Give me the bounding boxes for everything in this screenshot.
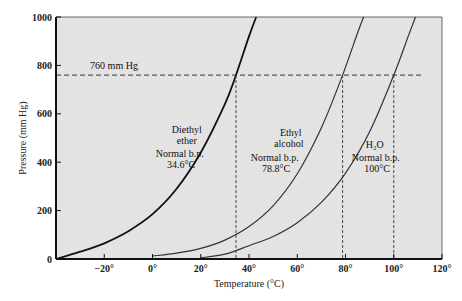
water-label-line-1: H₂O xyxy=(366,139,384,150)
ether-label-line-4: 34.6°C xyxy=(167,159,195,170)
ether-label-line-1: Diethyl xyxy=(172,124,202,135)
ether-label-line-2: ether xyxy=(177,135,198,146)
x-tick-label: 80° xyxy=(339,263,353,274)
alcohol-label-line-4: 78.8°C xyxy=(262,163,290,174)
x-tick-label: 60° xyxy=(290,263,304,274)
y-tick-label: 1000 xyxy=(32,12,52,23)
alcohol-label-line-2: alcohol xyxy=(274,138,304,149)
x-tick-label: 100° xyxy=(384,263,403,274)
x-tick-label: 20° xyxy=(194,263,208,274)
x-tick-label: 120° xyxy=(433,263,452,274)
x-tick-label: 0° xyxy=(148,263,157,274)
water-label-line-3: 100°C xyxy=(364,163,390,174)
water-label-line-2: Normal b.p. xyxy=(352,152,400,163)
x-tick-label: 40° xyxy=(242,263,256,274)
y-axis-label: Pressure (mm Hg) xyxy=(17,101,29,174)
reference-line-label: 760 mm Hg xyxy=(90,60,138,71)
y-tick-label: 400 xyxy=(37,157,52,168)
x-axis-label: Temperature (°C) xyxy=(214,278,284,290)
alcohol-label-line-1: Ethyl xyxy=(280,127,302,138)
y-tick-label: 800 xyxy=(37,60,52,71)
y-tick-label: 600 xyxy=(37,108,52,119)
y-tick-label: 0 xyxy=(47,254,52,265)
x-tick-label: −20° xyxy=(94,263,114,274)
alcohol-label-line-3: Normal b.p. xyxy=(251,152,299,163)
y-tick-label: 200 xyxy=(37,205,52,216)
vapor-pressure-chart: −20°0°20°40°60°80°100°120° 0200400600800… xyxy=(0,0,462,301)
ether-label-line-3: Normal b.p. xyxy=(156,148,204,159)
plot-background xyxy=(56,17,442,259)
